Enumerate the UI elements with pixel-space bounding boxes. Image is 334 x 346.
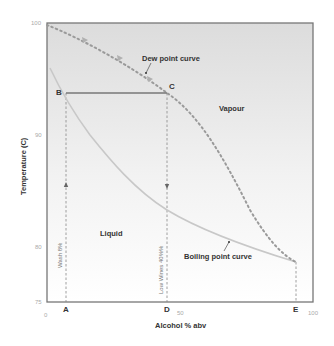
x-axis-title: Alcohol % abv (155, 321, 206, 330)
y-tick-80: 80 (35, 244, 42, 250)
region-vapour-label: Vapour (219, 104, 244, 113)
point-d-label: D (164, 305, 170, 314)
dew-pointer-dot (145, 72, 147, 74)
point-a-label: A (63, 305, 69, 314)
point-b-label: B (56, 88, 62, 97)
x-tick-0: 0 (44, 312, 47, 318)
y-axis-title: Temperature (C) (19, 138, 28, 195)
y-tick-75: 75 (35, 299, 42, 305)
boil-pointer-dot (228, 241, 230, 243)
point-e-label: E (293, 305, 298, 314)
low-wines-label: Low Wines 40%% (158, 246, 164, 294)
plot-area (47, 23, 313, 302)
x-tick-50: 50 (177, 310, 184, 316)
phase-diagram (0, 0, 334, 346)
boiling-point-curve-label: Boiling point curve (184, 252, 252, 261)
y-tick-90: 90 (35, 132, 42, 138)
point-c-label: C (169, 82, 175, 91)
y-tick-100: 100 (31, 20, 41, 26)
x-tick-100: 100 (308, 310, 318, 316)
dew-point-curve-label: Dew point curve (142, 54, 200, 63)
region-liquid-label: Liquid (100, 229, 123, 238)
wash-label: Wash 8% (57, 243, 63, 268)
